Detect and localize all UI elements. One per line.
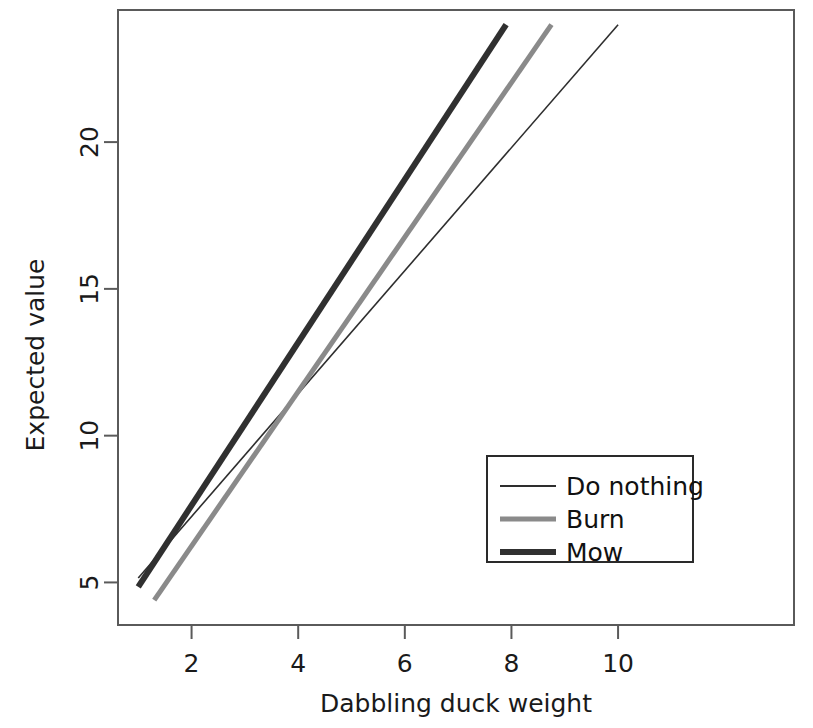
chart-legend: Do nothingBurnMow bbox=[487, 456, 704, 567]
y-tick-label: 20 bbox=[76, 126, 105, 158]
y-axis-title: Expected value bbox=[21, 259, 50, 452]
legend-label-mow: Mow bbox=[566, 538, 623, 567]
y-tick-label: 15 bbox=[76, 273, 105, 305]
chart-figure: 246810 5101520 Dabbling duck weight Expe… bbox=[0, 0, 813, 728]
chart-background bbox=[0, 0, 813, 728]
y-tick-label: 10 bbox=[76, 420, 105, 452]
x-axis-title: Dabbling duck weight bbox=[320, 689, 592, 718]
x-tick-label: 8 bbox=[503, 649, 519, 678]
x-tick-label: 10 bbox=[602, 649, 634, 678]
x-tick-label: 6 bbox=[397, 649, 413, 678]
legend-label-burn: Burn bbox=[566, 505, 625, 534]
line-chart: 246810 5101520 Dabbling duck weight Expe… bbox=[0, 0, 813, 728]
x-tick-label: 4 bbox=[290, 649, 306, 678]
y-tick-label: 5 bbox=[76, 574, 105, 590]
legend-label-do-nothing: Do nothing bbox=[566, 472, 704, 501]
x-tick-label: 2 bbox=[184, 649, 200, 678]
